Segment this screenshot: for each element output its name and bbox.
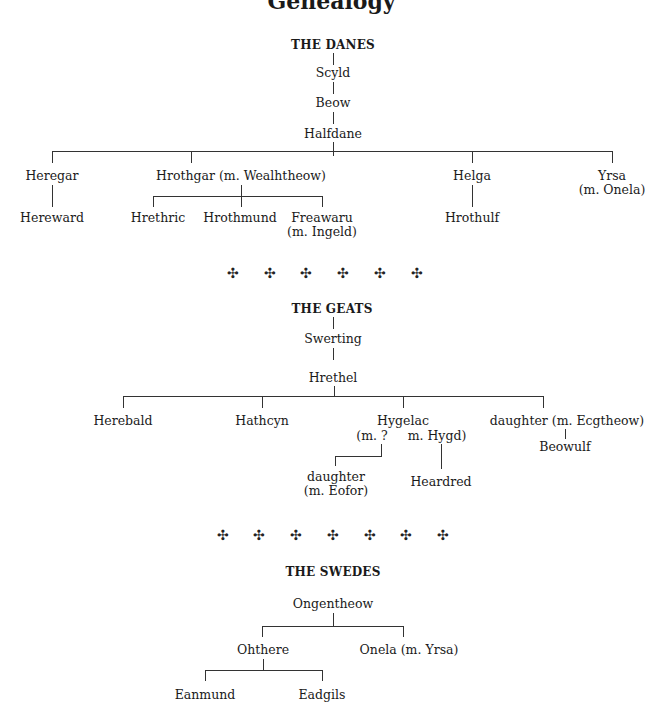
ornament-icon: ✣ xyxy=(227,265,239,281)
swedes-heading: THE SWEDES xyxy=(285,565,380,579)
connector xyxy=(262,396,263,408)
ornament-icon: ✣ xyxy=(300,265,312,281)
ornament-icon: ✣ xyxy=(337,265,349,281)
ornament-icon: ✣ xyxy=(264,265,276,281)
person-hrothgar: Hrothgar (m. Wealhtheow) xyxy=(156,169,326,183)
person-daughter-ecgtheow: daughter (m. Ecgtheow) xyxy=(490,414,644,428)
ornament-icon: ✣ xyxy=(327,527,339,543)
connector xyxy=(123,396,124,408)
person-hrethel: Hrethel xyxy=(309,371,358,385)
ornament-icon: ✣ xyxy=(400,527,412,543)
ornament-icon: ✣ xyxy=(217,527,229,543)
person-hereward: Hereward xyxy=(20,211,84,225)
connector xyxy=(263,659,264,670)
connector xyxy=(381,444,382,456)
ornament-icon: ✣ xyxy=(437,527,449,543)
connector xyxy=(262,626,404,627)
connector xyxy=(123,396,544,397)
connector xyxy=(333,348,334,360)
page-title-cut: Genealogy xyxy=(0,0,663,14)
ornament-icon: ✣ xyxy=(374,265,386,281)
connector xyxy=(472,151,473,163)
connector xyxy=(333,82,334,94)
connector xyxy=(612,151,613,163)
person-ongentheow: Ongentheow xyxy=(293,597,373,611)
spouse-daughter-eofor: (m. Eofor) xyxy=(304,484,368,498)
spouse-freawaru: (m. Ingeld) xyxy=(287,225,357,239)
connector xyxy=(322,670,323,681)
person-herebald: Herebald xyxy=(93,414,152,428)
ornament-icon: ✣ xyxy=(364,527,376,543)
person-freawaru: Freawaru xyxy=(291,211,353,225)
connector xyxy=(52,151,53,163)
ornament-icon: ✣ xyxy=(290,527,302,543)
person-hygelac: Hygelac xyxy=(377,414,429,428)
person-ohthere: Ohthere xyxy=(237,643,289,657)
connector xyxy=(472,185,473,207)
spouse-hygelac-hygd: m. Hygd) xyxy=(408,429,467,443)
spouse-yrsa: (m. Onela) xyxy=(579,183,646,197)
person-halfdane: Halfdane xyxy=(304,127,362,141)
ornament-icon: ✣ xyxy=(411,265,423,281)
connector xyxy=(333,112,334,124)
spouse-hygelac-unknown: (m. ? xyxy=(356,429,387,443)
connector xyxy=(441,444,442,469)
connector xyxy=(153,196,323,197)
danes-heading: THE DANES xyxy=(291,38,375,52)
geats-heading: THE GEATS xyxy=(291,302,372,316)
person-eanmund: Eanmund xyxy=(175,688,236,702)
connector xyxy=(52,185,53,207)
ornament-icon: ✣ xyxy=(253,527,265,543)
person-yrsa: Yrsa xyxy=(598,169,626,183)
person-hrothmund: Hrothmund xyxy=(203,211,276,225)
person-helga: Helga xyxy=(453,169,491,183)
person-daughter-eofor: daughter xyxy=(307,470,365,484)
connector xyxy=(153,196,154,207)
person-swerting: Swerting xyxy=(304,332,362,346)
person-eadgils: Eadgils xyxy=(299,688,346,702)
connector xyxy=(543,396,544,408)
connector xyxy=(333,317,334,329)
person-hrothulf: Hrothulf xyxy=(445,211,499,225)
person-hrethric: Hrethric xyxy=(131,211,185,225)
connector xyxy=(335,456,382,457)
connector xyxy=(52,151,613,152)
connector xyxy=(322,196,323,207)
person-beowulf: Beowulf xyxy=(539,440,590,454)
connector xyxy=(565,429,566,439)
person-heregar: Heregar xyxy=(25,169,78,183)
connector xyxy=(333,142,334,156)
connector xyxy=(403,626,404,637)
connector xyxy=(262,626,263,637)
connector xyxy=(191,151,192,163)
connector xyxy=(403,396,404,408)
person-onela: Onela (m. Yrsa) xyxy=(360,643,459,657)
person-scyld: Scyld xyxy=(316,66,351,80)
connector xyxy=(333,53,334,65)
connector xyxy=(205,670,206,681)
connector xyxy=(205,670,323,671)
person-heardred: Heardred xyxy=(410,475,471,489)
person-beow: Beow xyxy=(316,96,351,110)
person-hathcyn: Hathcyn xyxy=(235,414,289,428)
connector xyxy=(335,456,336,466)
connector xyxy=(333,613,334,626)
